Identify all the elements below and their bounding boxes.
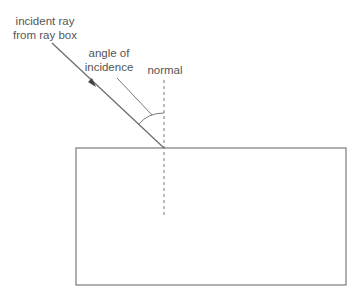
refraction-diagram: incident ray from ray box angle of incid… [0, 0, 364, 300]
incident-ray-label-line2: from ray box [13, 29, 77, 41]
normal-label: normal [147, 64, 182, 76]
angle-label-line2: incidence [85, 61, 134, 73]
angle-label-line1: angle of [89, 47, 131, 59]
incident-ray-label-line1: incident ray [16, 15, 75, 27]
glass-block [76, 148, 346, 285]
